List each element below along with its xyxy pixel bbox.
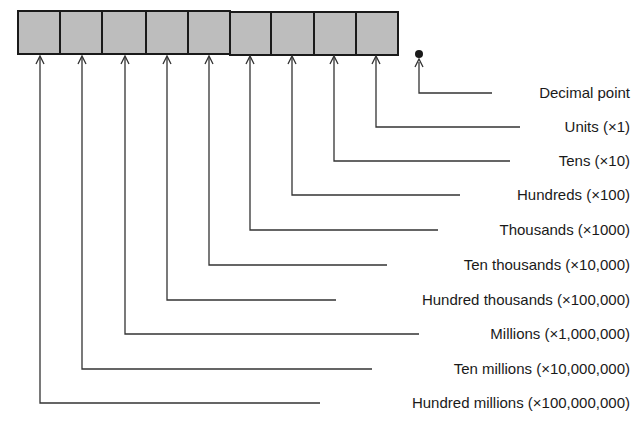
decimal-point-dot bbox=[415, 50, 423, 58]
label-units: Units (×1) bbox=[563, 118, 630, 136]
label-tens: Tens (×10) bbox=[557, 152, 630, 170]
cell-hundred-thousands bbox=[146, 11, 188, 54]
connector-units bbox=[376, 57, 520, 127]
register-cells bbox=[18, 11, 398, 55]
cell-thousands bbox=[230, 12, 271, 55]
cell-hundreds bbox=[271, 12, 314, 55]
connector-hundred-thousands bbox=[167, 57, 336, 300]
cell-tens bbox=[314, 12, 356, 55]
label-hundreds: Hundreds (×100) bbox=[515, 186, 630, 204]
connector-tens bbox=[334, 57, 510, 161]
cell-ten-thousands bbox=[188, 11, 230, 54]
connector-decimal-point bbox=[419, 62, 492, 93]
cell-hundred-millions bbox=[18, 11, 60, 54]
label-ten-millions: Ten millions (×10,000,000) bbox=[452, 360, 630, 378]
arrow-heads bbox=[36, 56, 423, 67]
label-millions: Millions (×1,000,000) bbox=[488, 325, 630, 343]
label-hundred-millions: Hundred millions (×100,000,000) bbox=[410, 394, 630, 412]
connector-thousands bbox=[250, 57, 438, 230]
cell-units bbox=[356, 12, 398, 55]
cell-ten-millions bbox=[60, 11, 102, 54]
cell-millions bbox=[102, 11, 146, 54]
connector-lines bbox=[40, 57, 520, 403]
label-thousands: Thousands (×1000) bbox=[497, 221, 630, 239]
label-ten-thousands: Ten thousands (×10,000) bbox=[462, 256, 630, 274]
label-decimal-point: Decimal point bbox=[537, 84, 630, 102]
label-hundred-thousands: Hundred thousands (×100,000) bbox=[420, 291, 630, 309]
